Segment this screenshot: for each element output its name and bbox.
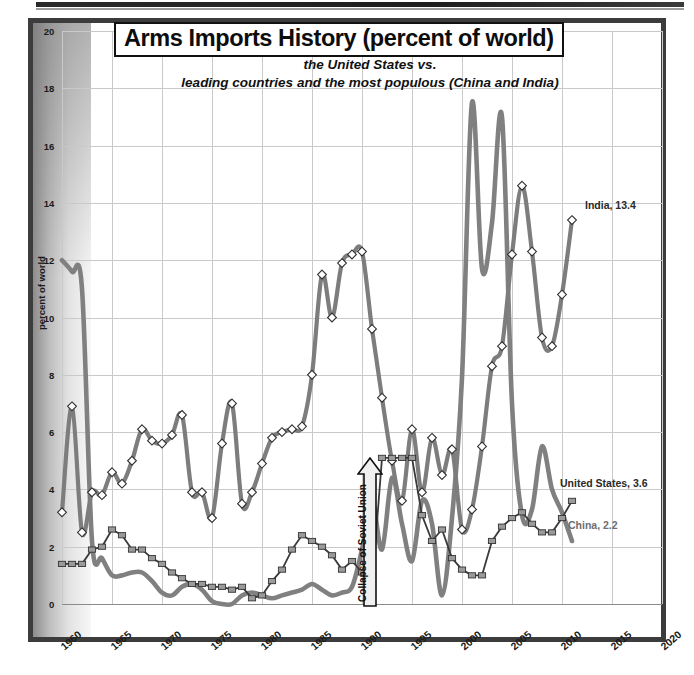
china-data-marker [558,515,565,520]
y-tick-label: 20 [14,26,54,37]
china-data-marker [128,547,135,552]
china-data-marker [448,556,455,561]
china-data-marker [188,581,195,586]
chart-subtitle-line-1: the United States vs. [120,56,620,74]
china-data-marker [418,513,425,518]
annotation-ussr-label: Collapse of Soviet Union [357,479,368,607]
china-data-marker [568,498,575,503]
china-data-marker [238,584,245,589]
china-data-marker [118,533,125,538]
y-tick-label: 12 [14,255,54,266]
y-tick-label: 2 [14,541,54,552]
chart-subtitle: the United States vs. leading countries … [120,56,620,92]
us-data-marker [308,370,317,379]
chart-title: Arms Imports History (percent of world) [114,22,564,57]
chart-subtitle-line-2: leading countries and the most populous … [120,74,620,92]
us-data-marker [478,442,487,451]
china-data-marker [518,510,525,515]
china-data-marker [108,527,115,532]
china-data-marker [478,573,485,578]
y-tick-label: 8 [14,369,54,380]
china-data-marker [98,544,105,549]
y-tick-label: 16 [14,140,54,151]
china-data-marker [78,561,85,566]
china-data-marker [538,530,545,535]
china-data-marker [68,561,75,566]
page-top-edge-bar-secondary [36,8,684,10]
us-data-marker [558,290,567,299]
us-data-marker [378,393,387,402]
china-data-marker [298,533,305,538]
china-data-marker [438,527,445,532]
annotation-india: India, 13.4 [585,199,636,211]
china-data-marker [508,515,515,520]
y-tick-label: 18 [14,83,54,94]
series-india [62,101,572,605]
china-data-marker [388,455,395,460]
china-data-marker [458,567,465,572]
china-data-marker [178,576,185,581]
series-united-states [58,181,577,536]
china-data-marker [528,521,535,526]
china-data-marker [148,556,155,561]
gridline-vertical [662,31,663,604]
us-data-marker [218,439,227,448]
china-data-marker [398,455,405,460]
china-data-marker [308,538,315,543]
china-data-marker [168,570,175,575]
chart-title-text: Arms Imports History (percent of world) [124,25,554,51]
china-data-marker [468,573,475,578]
china-data-marker [158,561,165,566]
china-data-marker [348,558,355,563]
y-tick-label: 0 [14,599,54,610]
china-data-marker [88,547,95,552]
china-data-marker [248,596,255,601]
y-tick-label: 6 [14,427,54,438]
china-data-marker [318,544,325,549]
china-data-marker [268,578,275,583]
china-data-marker [258,593,265,598]
y-tick-label: 10 [14,312,54,323]
us-data-marker [498,342,507,351]
china-data-marker [198,581,205,586]
china-data-marker [338,567,345,572]
series-china [58,455,575,601]
china-line [62,458,572,598]
china-data-marker [498,524,505,529]
china-data-marker [288,547,295,552]
china-data-marker [428,538,435,543]
annotation-ussr-callout: Collapse of Soviet Union [357,457,383,607]
china-data-marker [208,584,215,589]
us-data-marker [368,325,377,334]
china-data-marker [328,553,335,558]
page-top-edge-bar [36,2,684,7]
y-tick-label: 14 [14,197,54,208]
us-data-marker [468,505,477,514]
china-data-marker [548,530,555,535]
us-data-marker [528,247,537,256]
us-data-marker [488,362,497,371]
china-data-marker [228,587,235,592]
china-data-marker [138,547,145,552]
china-data-marker [488,538,495,543]
annotation-united-states: United States, 3.6 [560,477,648,489]
us-line [62,186,572,535]
china-data-marker [408,455,415,460]
china-data-marker [278,567,285,572]
india-line [62,101,572,605]
china-data-marker [218,584,225,589]
us-data-marker [288,425,297,434]
us-data-marker [538,333,547,342]
us-data-marker [568,216,577,225]
china-data-marker [58,561,65,566]
y-tick-label: 4 [14,484,54,495]
annotation-china: China, 2.2 [568,519,618,531]
